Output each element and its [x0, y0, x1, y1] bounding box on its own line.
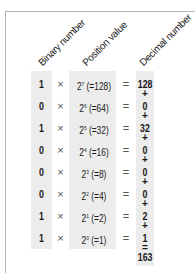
position-value: 26 (=64) — [72, 99, 117, 115]
plus-sign: + — [136, 156, 154, 164]
table-row: 1×25 (=32)=32 — [0, 121, 195, 135]
table-row: 0×23 (=8)=0 — [0, 165, 195, 179]
position-value: 25 (=32) — [72, 121, 117, 137]
times-sign: × — [54, 165, 67, 179]
table-row: 1×21 (=2)=2 — [0, 209, 195, 223]
equals-sign: = — [119, 77, 133, 91]
position-value: 22 (=4) — [72, 187, 117, 203]
position-value: 24 (=16) — [72, 143, 117, 159]
equals-sign: = — [119, 99, 133, 113]
times-sign: × — [54, 77, 67, 91]
position-value: 27 (=128) — [72, 77, 117, 93]
equals-sign: = — [119, 143, 133, 157]
table-row: 1×27 (=128)=128 — [0, 77, 195, 91]
times-sign: × — [54, 143, 67, 157]
position-value: 20 (=1) — [72, 231, 117, 247]
times-sign: × — [54, 209, 67, 223]
times-sign: × — [54, 187, 67, 201]
position-value: 23 (=8) — [72, 165, 117, 181]
binary-digit: 0 — [33, 143, 50, 157]
plus-sign: + — [136, 112, 154, 120]
table-row: 0×26 (=64)=0 — [0, 99, 195, 113]
position-value: 21 (=2) — [72, 209, 117, 225]
binary-digit: 1 — [33, 209, 50, 223]
equals-sign: = — [119, 231, 133, 245]
times-sign: × — [54, 121, 67, 135]
binary-digit: 1 — [33, 121, 50, 135]
binary-digit: 1 — [33, 231, 50, 245]
equals-sign: = — [119, 187, 133, 201]
table-row: 0×22 (=4)=0 — [0, 187, 195, 201]
plus-sign: + — [136, 134, 154, 142]
equals-sign: = — [119, 165, 133, 179]
plus-sign: + — [136, 178, 154, 186]
equals-sign: = — [119, 121, 133, 135]
plus-sign: + — [136, 90, 154, 98]
binary-digit: 1 — [33, 77, 50, 91]
times-sign: × — [54, 231, 67, 245]
equals-sign: = — [119, 209, 133, 223]
binary-digit: 0 — [33, 165, 50, 179]
binary-digit: 0 — [33, 187, 50, 201]
binary-digit: 0 — [33, 99, 50, 113]
table-row: 1×20 (=1)=1 — [0, 231, 195, 245]
table-row: 0×24 (=16)=0 — [0, 143, 195, 157]
plus-sign: + — [136, 200, 154, 208]
times-sign: × — [54, 99, 67, 113]
plus-sign: + — [136, 222, 154, 230]
total-value: 163 — [138, 251, 152, 263]
